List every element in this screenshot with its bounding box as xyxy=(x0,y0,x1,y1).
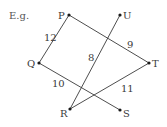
weight-r-t: 11 xyxy=(121,83,134,94)
label-r: R xyxy=(60,108,68,119)
node-q xyxy=(37,61,40,64)
node-p xyxy=(67,13,70,16)
node-u xyxy=(118,13,121,16)
label-t: T xyxy=(152,58,159,69)
weight-q-s: 10 xyxy=(52,78,65,89)
weighted-graph-diagram: E.g. 12 9 8 10 11 P U Q T R S xyxy=(0,0,167,127)
node-s xyxy=(118,108,121,111)
label-u: U xyxy=(123,10,131,21)
label-p: P xyxy=(58,10,65,21)
caption: E.g. xyxy=(9,10,29,21)
label-s: S xyxy=(123,108,130,119)
weight-u-r: 8 xyxy=(88,52,94,63)
label-q: Q xyxy=(27,58,35,69)
edge-p-t xyxy=(69,15,149,63)
node-r xyxy=(68,107,71,110)
node-t xyxy=(147,61,150,64)
weight-p-q: 12 xyxy=(44,32,57,43)
weight-p-t: 9 xyxy=(127,39,133,50)
